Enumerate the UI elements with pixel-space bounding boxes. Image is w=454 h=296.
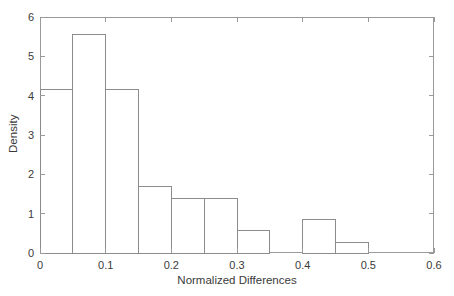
x-tick-label: 0.6	[426, 260, 441, 271]
figure-container: 0123456 00.10.20.30.40.50.6 Normalized D…	[0, 0, 454, 296]
y-tick-label: 0	[4, 248, 34, 259]
y-tick-label: 6	[4, 12, 34, 23]
x-tick-label: 0.3	[229, 260, 244, 271]
x-axis-title: Normalized Differences	[40, 275, 434, 287]
x-tick-label: 0.5	[361, 260, 376, 271]
y-axis-title: Density	[8, 94, 20, 174]
x-tick-label: 0.1	[98, 260, 113, 271]
plot-axes-frame	[40, 17, 434, 253]
x-tick-label: 0	[37, 260, 43, 271]
y-tick-label: 5	[4, 51, 34, 62]
x-tick-label: 0.2	[164, 260, 179, 271]
y-tick-label: 1	[4, 208, 34, 219]
x-tick-label: 0.4	[295, 260, 310, 271]
